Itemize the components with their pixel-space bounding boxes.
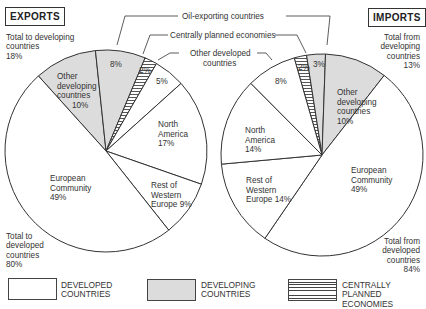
imports-total-developed: Total from developed countries 84% (382, 237, 420, 275)
exports-title: EXPORTS (5, 7, 65, 26)
legend-label-developing: DEVELOPINGCOUNTRIES (201, 281, 255, 300)
svg-text:2%: 2% (139, 66, 151, 75)
svg-text:8%: 8% (110, 60, 122, 69)
callout-cpe: Centrally planned economies (170, 31, 276, 40)
legend-swatch-developing (147, 279, 196, 301)
legend-label-developed: DEVELOPEDCOUNTRIES (61, 281, 112, 300)
exports-total-developed: Total to developed countries 80% (6, 232, 44, 270)
callout-other-developed: Other developed (190, 49, 251, 58)
imports-pie (221, 54, 423, 256)
imports-title: IMPORTS (368, 8, 426, 27)
legend-swatch-centrally-planned (288, 279, 337, 301)
legend-swatch-developed (8, 278, 57, 300)
svg-text:3%: 3% (313, 60, 325, 69)
legend-label-centrally-planned: CENTRALLYPLANNED ECONOMIES (342, 281, 425, 309)
svg-text:5%: 5% (156, 77, 168, 86)
exports-pie (5, 50, 207, 252)
exports-total-developing: Total to developing countries 18% (6, 33, 74, 61)
imports-total-developing: Total from developing countries 13% (380, 33, 420, 71)
svg-text:2%: 2% (298, 63, 310, 72)
callout-other-developed-2: countries (203, 59, 236, 68)
callout-oil: Oil-exporting countries (182, 12, 264, 21)
svg-text:8%: 8% (275, 77, 287, 86)
